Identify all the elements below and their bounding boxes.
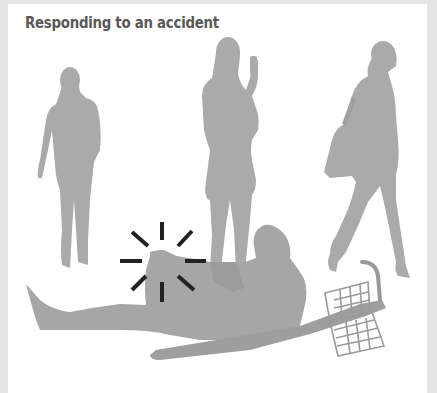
standing-woman-left-silhouette <box>38 67 101 268</box>
accident-illustration <box>0 0 437 393</box>
woman-walking-with-bag-silhouette <box>324 41 410 278</box>
woman-taking-photo-silhouette <box>202 37 259 296</box>
